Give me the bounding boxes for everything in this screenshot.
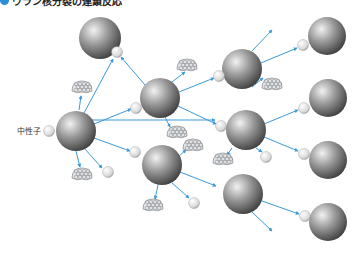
arrow-icon xyxy=(180,172,216,186)
fission-fragment-icon xyxy=(72,168,92,180)
arrow-icon xyxy=(252,30,272,51)
neutron-icon xyxy=(299,103,310,114)
arrow-icon xyxy=(261,48,297,63)
uranium-nucleus-icon xyxy=(56,111,96,151)
neutron-icon xyxy=(214,71,225,82)
arrow-icon xyxy=(165,117,170,127)
arrow-icon xyxy=(121,57,145,85)
arrow-icon xyxy=(94,109,131,124)
uranium-nucleus-icon xyxy=(309,79,347,117)
arrow-icon xyxy=(256,148,262,152)
arrow-icon xyxy=(76,151,80,167)
neutron-icon xyxy=(131,103,142,114)
uranium-nucleus-icon xyxy=(308,17,346,55)
fission-fragment-icon xyxy=(143,199,163,211)
uranium-nucleus-icon xyxy=(222,49,262,89)
arrow-icon xyxy=(172,72,185,82)
neutron-icon xyxy=(103,167,114,178)
uranium-nucleus-icon xyxy=(223,174,263,214)
neutron-icon xyxy=(189,198,200,209)
neutron-icon xyxy=(261,152,272,163)
arrow-icon xyxy=(172,183,189,198)
neutron-icon xyxy=(112,47,123,58)
arrow-icon xyxy=(84,148,102,168)
uranium-nucleus-icon xyxy=(226,110,266,150)
chain-reaction-diagram xyxy=(0,0,357,253)
uranium-nucleus-icon xyxy=(142,145,182,185)
arrow-icon xyxy=(79,96,81,110)
arrow-icon xyxy=(262,201,299,214)
neutron-icon xyxy=(130,147,141,158)
arrow-icon xyxy=(94,138,130,151)
uranium-nucleus-icon xyxy=(309,141,347,179)
arrow-icon xyxy=(252,212,272,231)
arrow-icon xyxy=(264,137,298,151)
arrow-icon xyxy=(264,110,298,124)
neutron-icon xyxy=(298,40,309,51)
uranium-nucleus-icon xyxy=(140,78,180,118)
fission-fragment-icon xyxy=(177,59,197,71)
fission-fragment-icon xyxy=(167,126,187,138)
fission-fragment-icon xyxy=(213,153,233,165)
arrow-icon xyxy=(155,185,158,199)
neutron-icon xyxy=(216,121,227,132)
arrow-icon xyxy=(179,78,214,92)
fission-fragment-icon xyxy=(183,139,203,151)
arrow-icon xyxy=(178,106,216,124)
fission-fragment-icon xyxy=(262,78,282,90)
neutron-icon xyxy=(299,149,310,160)
fission-fragment-icon xyxy=(72,81,92,93)
uranium-nucleus-icon xyxy=(309,203,347,241)
neutron-icon xyxy=(44,126,55,137)
neutron-icon xyxy=(300,211,311,222)
